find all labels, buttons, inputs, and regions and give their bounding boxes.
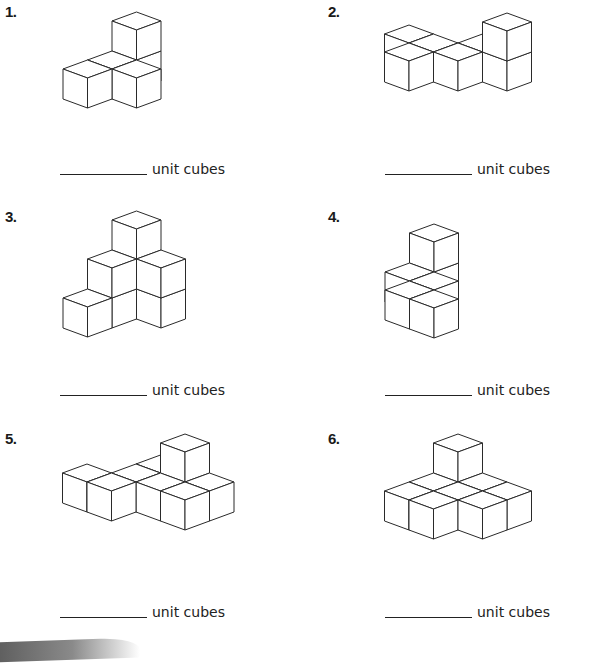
cube-figure-2 [385,13,532,91]
problem-1-answer-blank[interactable] [60,174,147,175]
problem-3-answer: unit cubes [60,381,225,399]
cube-figure-5 [63,434,235,530]
unit-cube [137,250,186,298]
unit-cube [63,289,112,337]
unit-cube [434,43,483,91]
unit-cube [409,491,458,539]
unit-cube [112,60,161,108]
unit-cube [87,473,136,521]
unit-cube [458,491,507,539]
problem-4-answer-blank[interactable] [385,395,472,396]
problem-5-answer: unit cubes [60,603,225,621]
problem-3-number: 3. [5,208,17,225]
problem-6-answer: unit cubes [385,603,550,621]
problem-6-answer-blank[interactable] [385,617,472,618]
problem-2-unit-label: unit cubes [477,160,550,178]
cube-figure-3 [63,211,186,337]
problem-3-unit-label: unit cubes [152,381,225,399]
problem-2-number: 2. [328,3,340,20]
unit-cube [88,250,137,298]
cube-figure-4 [385,224,459,338]
problem-2-answer: unit cubes [385,160,550,178]
unit-cube [385,43,434,91]
problem-1-unit-label: unit cubes [152,160,225,178]
problem-1-number: 1. [5,3,17,20]
unit-cube [112,211,161,259]
cube-figure-6 [385,434,532,539]
problem-5-unit-label: unit cubes [152,603,225,621]
unit-cube [410,224,459,272]
problem-6-number: 6. [328,430,340,447]
cube-figure-1 [63,12,161,108]
problem-3-answer-blank[interactable] [60,395,147,396]
problem-4-number: 4. [328,208,340,225]
unit-cube [161,482,210,530]
unit-cube [434,434,483,482]
unit-cube [112,12,161,60]
problem-4-answer: unit cubes [385,381,550,399]
unit-cube [63,60,112,108]
problem-5-answer-blank[interactable] [60,617,147,618]
unit-cube [161,434,210,482]
unit-cube [410,290,459,338]
unit-cube [483,13,532,61]
page-edge-shadow [0,637,140,662]
problem-4-unit-label: unit cubes [477,381,550,399]
problem-5-number: 5. [5,430,17,447]
problem-1-answer: unit cubes [60,160,225,178]
problem-2-answer-blank[interactable] [385,174,472,175]
problem-6-unit-label: unit cubes [477,603,550,621]
